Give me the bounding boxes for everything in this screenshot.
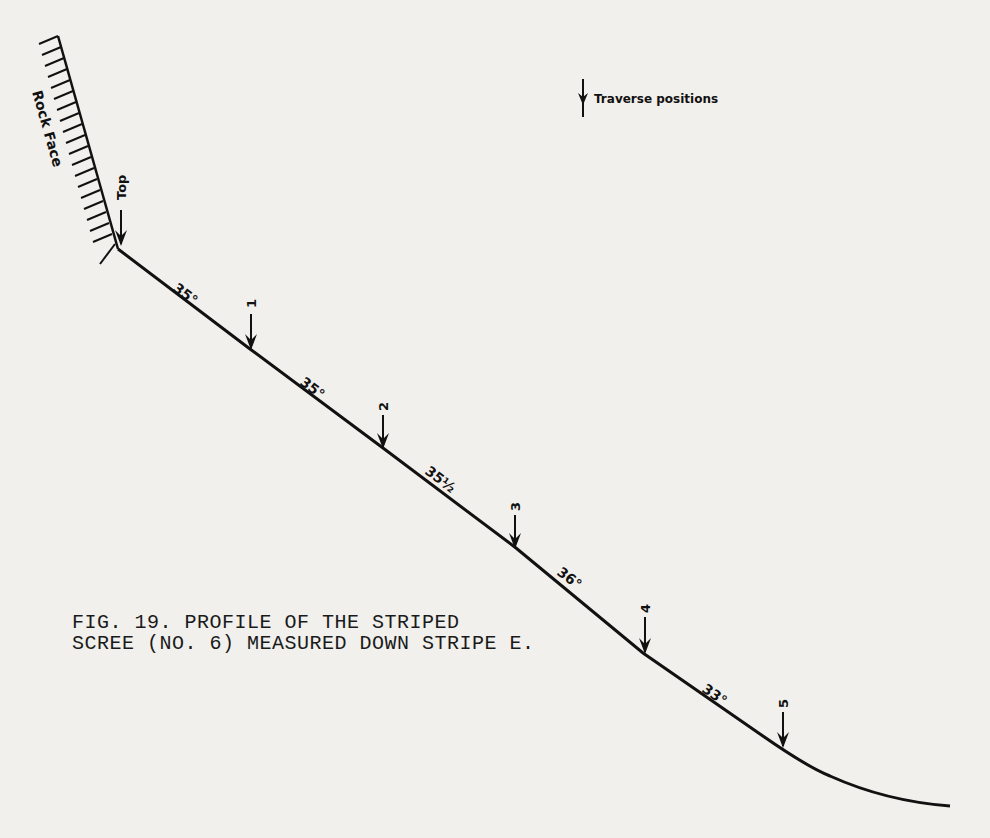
down-arrow-icon — [578, 79, 588, 119]
svg-text:3: 3 — [508, 502, 523, 511]
angle-label-2: 35° — [297, 374, 328, 403]
traverse-position-5: 5 — [776, 699, 791, 748]
angle-label-4: 36° — [554, 564, 585, 593]
svg-text:4: 4 — [638, 604, 653, 613]
svg-text:2: 2 — [376, 402, 391, 411]
traverse-position-4: 4 — [638, 604, 653, 654]
top-label: Top — [114, 175, 129, 200]
traverse-position-1: 1 — [244, 299, 259, 350]
caption-line-1: FIG. 19. PROFILE OF THE STRIPED — [72, 612, 535, 633]
figure-caption: FIG. 19. PROFILE OF THE STRIPEDSCREE (NO… — [72, 612, 535, 654]
slope-profile-line — [118, 249, 950, 806]
scree-profile-diagram: Rock Face Top 35° 35° 35½ 36° 33° 1 2 3 … — [0, 0, 990, 838]
rock-face-label: Rock Face — [29, 88, 66, 168]
traverse-position-2: 2 — [376, 402, 391, 449]
svg-text:5: 5 — [776, 699, 791, 708]
angle-label-1: 35° — [170, 280, 201, 309]
legend: Traverse positions — [578, 79, 718, 119]
legend-label: Traverse positions — [594, 92, 718, 106]
svg-text:1: 1 — [244, 299, 259, 308]
caption-line-2: SCREE (NO. 6) MEASURED DOWN STRIPE E. — [72, 633, 535, 654]
